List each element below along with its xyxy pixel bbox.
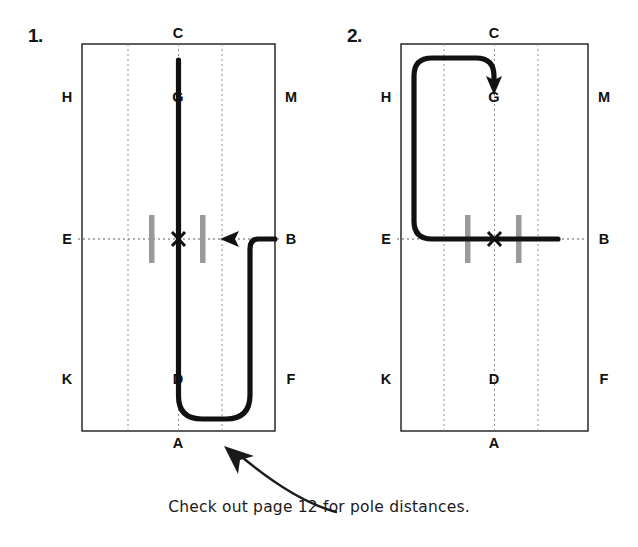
caption-text: Check out page 12 for pole distances. [0, 498, 638, 516]
letter-F: F [600, 372, 609, 387]
letter-A: A [173, 436, 183, 451]
letter-K: K [381, 372, 391, 387]
letter-H: H [62, 90, 72, 105]
letter-M: M [598, 90, 610, 105]
letter-E: E [381, 232, 391, 247]
letter-F: F [287, 372, 296, 387]
letter-A: A [489, 436, 499, 451]
arena-1-graphic [0, 0, 319, 470]
letter-G: G [488, 90, 499, 105]
ridden-track-path-2 [414, 58, 558, 239]
letter-E: E [62, 232, 72, 247]
pole-right [200, 215, 206, 263]
arrowhead-at-x [220, 231, 239, 247]
letter-G: G [172, 90, 183, 105]
letter-M: M [285, 90, 297, 105]
worksheet-page: 1. C H G M E B K [0, 0, 638, 547]
letter-D: D [173, 372, 183, 387]
letter-C: C [173, 26, 183, 41]
letter-K: K [62, 372, 72, 387]
curved-arrow-up-left-icon [224, 446, 254, 474]
pole-left [149, 215, 155, 263]
arena-2-graphic [319, 0, 638, 470]
letter-B: B [599, 232, 609, 247]
letter-D: D [489, 372, 499, 387]
letter-B: B [286, 232, 296, 247]
letter-H: H [381, 90, 391, 105]
letter-C: C [489, 26, 499, 41]
diagram-2: 2. C H G M E B K D F A [319, 0, 638, 470]
diagram-1: 1. C H G M E B K [0, 0, 319, 470]
